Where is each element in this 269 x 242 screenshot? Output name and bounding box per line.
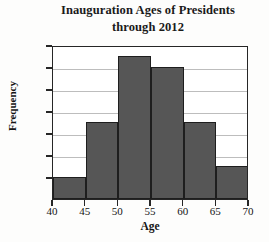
plot-inner <box>53 47 247 199</box>
y-tick-mark <box>46 133 52 134</box>
x-tick-label: 60 <box>168 205 198 217</box>
x-tick-label: 40 <box>37 205 67 217</box>
histogram-bar <box>216 166 247 199</box>
y-tick-mark <box>46 177 52 178</box>
x-axis-title: Age <box>52 220 248 232</box>
x-tick-label: 45 <box>70 205 100 217</box>
chart-title-line1: Inauguration Ages of Presidents <box>61 3 235 17</box>
y-tick-mark <box>46 67 52 68</box>
y-tick-mark <box>46 111 52 112</box>
plot-area <box>52 46 248 200</box>
y-tick-mark <box>46 155 52 156</box>
chart-title-line2: through 2012 <box>34 19 262 36</box>
histogram-bar <box>118 56 151 199</box>
x-tick-label: 50 <box>102 205 132 217</box>
x-tick-label: 55 <box>135 205 165 217</box>
histogram-bar <box>184 122 217 199</box>
y-tick-mark <box>46 89 52 90</box>
y-tick-mark <box>46 45 52 46</box>
y-axis-title: Frequency <box>6 71 18 141</box>
histogram-bar <box>53 177 86 199</box>
x-tick-label: 70 <box>233 205 263 217</box>
histogram-bar <box>86 122 119 199</box>
histogram-bar <box>151 67 184 199</box>
histogram-screenshot: Inauguration Ages of Presidents through … <box>0 0 269 242</box>
chart-title: Inauguration Ages of Presidents through … <box>34 2 262 36</box>
x-tick-label: 65 <box>200 205 230 217</box>
